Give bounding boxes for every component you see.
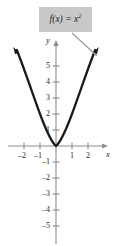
- x-tick-label--2: –2: [18, 152, 26, 160]
- y-tick-label-2: 2: [46, 110, 50, 118]
- y-tick-label-1: 1: [46, 126, 50, 134]
- y-tick-label-3: 3: [46, 94, 50, 102]
- y-tick-label-5: 5: [46, 62, 50, 70]
- y-tick-label--3: –3: [42, 190, 50, 198]
- y-tick-label-4: 4: [46, 78, 50, 86]
- function-label-callout: f(x) = x2: [39, 7, 92, 32]
- x-axis-arrow-icon: [102, 143, 108, 148]
- x-tick-label-1: 1: [70, 152, 74, 160]
- callout-leader-line: [72, 33, 97, 56]
- y-tick-label--1: –1: [42, 158, 50, 166]
- x-tick-label--1: –1: [34, 152, 42, 160]
- x-axis-label: x: [106, 150, 110, 159]
- y-axis-arrow-icon: [53, 40, 58, 46]
- y-tick-label--2: –2: [42, 174, 50, 182]
- function-label-text: f(x) = x2: [50, 15, 82, 25]
- graph-canvas: [0, 0, 118, 246]
- y-tick-label--4: –4: [42, 206, 50, 214]
- y-tick-label--5: –5: [42, 222, 50, 230]
- function-graph-figure: f(x) = x2 x y –2 –1 1 2 5 4 3 2 1 –1 –2 …: [0, 0, 118, 246]
- x-tick-label-2: 2: [86, 152, 90, 160]
- y-axis-label: y: [46, 36, 50, 45]
